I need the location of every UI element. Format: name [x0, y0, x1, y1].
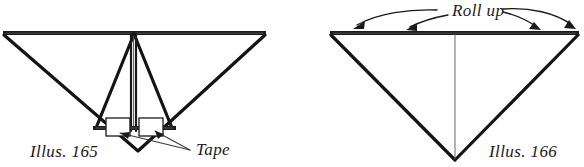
roll-up-label: Roll up: [451, 1, 504, 20]
illustration-sheet: Tape Illus. 165: [0, 0, 584, 167]
roll-up-arrow-2-head: [406, 23, 417, 31]
outer-triangle-165: [4, 35, 265, 151]
outer-triangle-sides: [4, 35, 265, 151]
caption-illus-165: Illus. 165: [29, 142, 98, 161]
caption-illus-166: Illus. 166: [488, 142, 557, 161]
roll-up-arrow-3-curve: [503, 12, 537, 27]
top-edge-band-166: [330, 31, 579, 35]
inner-triangle-165: [96, 34, 172, 128]
figure-illus-166: Roll up Illus. 166: [330, 1, 579, 161]
inner-triangle-right-leg: [134, 34, 172, 128]
figure-illus-165: Tape Illus. 165: [3, 31, 266, 161]
roll-up-arrow-1-head: [353, 21, 365, 29]
tape-label: Tape: [196, 140, 230, 159]
diagram-canvas: Tape Illus. 165: [0, 0, 584, 167]
rolled-tube-165: [131, 34, 136, 131]
inner-triangle-left-leg: [96, 34, 134, 128]
roll-up-arrow-1-curve: [357, 10, 437, 25]
roll-up-arrow-4-curve: [503, 9, 572, 25]
